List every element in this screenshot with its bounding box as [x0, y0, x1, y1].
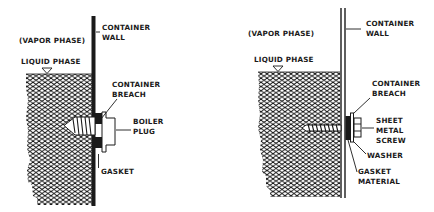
label-line: SCREW: [376, 136, 406, 146]
right-sheet-metal-screw-label: SHEET METAL SCREW: [376, 116, 406, 146]
right-container-breach-label: CONTAINER BREACH: [372, 79, 420, 99]
label-line: WASHER: [367, 151, 403, 161]
right-washer: [351, 113, 354, 142]
label-line: CONTAINER: [372, 79, 420, 89]
left-liquid-region: [26, 74, 92, 205]
label-line: WALL: [102, 33, 150, 43]
right-washer-label: WASHER: [367, 151, 403, 161]
label-line: METAL: [376, 126, 406, 136]
label-line: GASKET: [358, 167, 400, 177]
left-boiler-plug-head: [102, 112, 115, 152]
label-line: SHEET: [376, 116, 406, 126]
right-liquid-region: [258, 72, 340, 197]
left-container-breach-label: CONTAINER BREACH: [112, 80, 160, 100]
left-boiler-plug-label: BOILER PLUG: [133, 117, 164, 137]
left-container-wall-label: CONTAINER WALL: [102, 23, 150, 43]
right-liquid-level-marker: [273, 66, 283, 72]
label-line: BREACH: [112, 90, 160, 100]
left-container-wall: [92, 16, 96, 206]
label-line: BOILER: [133, 117, 164, 127]
left-vapor-phase-label: (VAPOR PHASE): [19, 36, 85, 46]
label-line: CONTAINER: [102, 23, 150, 33]
left-gasket-label: GASKET: [101, 167, 134, 177]
label-line: WALL: [366, 29, 414, 39]
right-liquid-phase-label: LIQUID PHASE: [254, 55, 314, 65]
label-line: CONTAINER: [366, 19, 414, 29]
label-line: CONTAINER: [112, 80, 160, 90]
right-container-wall-label: CONTAINER WALL: [366, 19, 414, 39]
label-line: BREACH: [372, 89, 420, 99]
left-liquid-level-marker: [42, 68, 52, 74]
diagram-canvas: CONTAINER WALL (VAPOR PHASE) LIQUID PHAS…: [0, 0, 434, 212]
right-screw-thread: [302, 124, 341, 132]
right-gasket-material: [346, 116, 351, 140]
right-vapor-phase-label: (VAPOR PHASE): [248, 29, 314, 39]
right-gasket-material-label: GASKET MATERIAL: [358, 167, 400, 187]
right-screw-head: [354, 118, 361, 137]
left-liquid-phase-label: LIQUID PHASE: [21, 57, 81, 67]
right-container-wall: [341, 8, 345, 198]
label-line: GASKET: [101, 167, 134, 177]
label-line: MATERIAL: [358, 177, 400, 187]
label-line: PLUG: [133, 127, 164, 137]
